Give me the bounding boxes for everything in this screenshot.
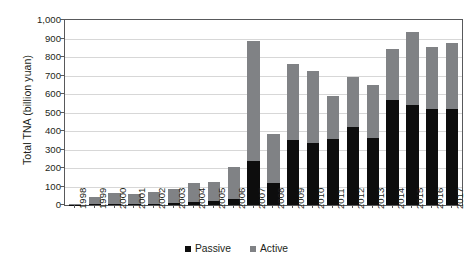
bar-segment-active <box>347 77 359 127</box>
x-axis-tick-mark <box>332 205 333 208</box>
x-axis-tick-label: 2009 <box>296 188 306 209</box>
x-axis-tick-label: 2011 <box>336 188 346 209</box>
bar-segment-active <box>406 32 418 105</box>
x-axis-tick-label: 2010 <box>316 188 326 209</box>
y-axis-tick-label: 600 <box>5 89 61 99</box>
x-axis-tick-label: 2004 <box>197 188 207 209</box>
y-axis-tick-label: 1,000 <box>5 15 61 25</box>
bar-segment-active <box>367 85 379 139</box>
bar-stack <box>247 41 259 205</box>
y-axis-tick-label: 800 <box>5 52 61 62</box>
legend-swatch-icon <box>250 246 256 252</box>
x-axis-tick-label: 2000 <box>118 188 128 209</box>
chart-legend: PassiveActive <box>0 243 473 254</box>
y-axis-tick-label: 700 <box>5 71 61 81</box>
x-axis-tick-label: 2005 <box>217 188 227 209</box>
bar-segment-active <box>327 96 339 139</box>
x-axis-tick-label: 2002 <box>157 188 167 209</box>
bar-stack <box>446 43 458 205</box>
x-axis-tick-mark <box>94 205 95 208</box>
y-axis-tick-label: 400 <box>5 126 61 136</box>
x-axis-tick-label: 2017 <box>455 188 465 209</box>
x-axis-tick-mark <box>213 205 214 208</box>
bar-segment-active <box>307 71 319 143</box>
x-axis-tick-mark <box>173 205 174 208</box>
x-axis-tick-mark <box>312 205 313 208</box>
bar-segment-active <box>287 64 299 140</box>
legend-item-passive: Passive <box>185 243 231 254</box>
x-axis-tick-mark <box>253 205 254 208</box>
x-axis-tick-label: 1998 <box>78 188 88 209</box>
bar-segment-active <box>267 134 279 183</box>
bar-segment-active <box>446 43 458 109</box>
bar-stack <box>287 64 299 205</box>
x-axis-tick-mark <box>352 205 353 208</box>
x-axis-tick-mark <box>153 205 154 208</box>
legend-label: Passive <box>195 243 231 254</box>
bar-segment-active <box>247 41 259 160</box>
y-axis-tick-label: 200 <box>5 163 61 173</box>
x-axis-tick-label: 2015 <box>415 188 425 209</box>
y-axis-tick-label: 300 <box>5 145 61 155</box>
bar-segment-active <box>426 47 438 109</box>
x-axis-tick-label: 2001 <box>137 188 147 209</box>
x-axis-tick-mark <box>411 205 412 208</box>
x-axis-tick-label: 2014 <box>396 188 406 209</box>
x-axis-tick-mark <box>372 205 373 208</box>
bar-segment-active <box>386 49 398 100</box>
x-axis-tick-mark <box>392 205 393 208</box>
x-axis-tick-label: 2003 <box>177 188 187 209</box>
bar-stack <box>347 77 359 205</box>
bar-stack <box>426 47 438 205</box>
x-axis-tick-mark <box>292 205 293 208</box>
x-axis-tick-mark <box>114 205 115 208</box>
legend-swatch-icon <box>185 246 191 252</box>
chart-figure: Total TNA (billion yuan) 010020030040050… <box>0 0 473 268</box>
x-axis-tick-mark <box>133 205 134 208</box>
legend-label: Active <box>260 243 288 254</box>
bar-stack <box>406 32 418 205</box>
bar-group <box>65 20 462 205</box>
x-axis-tick-label: 2006 <box>237 188 247 209</box>
x-axis-tick-label: 2008 <box>276 188 286 209</box>
x-axis-tick-mark <box>74 205 75 208</box>
x-axis-tick-label: 2016 <box>435 188 445 209</box>
x-axis-tick-label: 2012 <box>356 188 366 209</box>
x-axis-tick-mark <box>431 205 432 208</box>
y-axis-tick-label: 100 <box>5 182 61 192</box>
plot-area <box>64 19 463 206</box>
x-axis-tick-label: 2013 <box>376 188 386 209</box>
x-axis-tick-mark <box>272 205 273 208</box>
x-axis-tick-label: 1999 <box>98 188 108 209</box>
x-axis-tick-mark <box>451 205 452 208</box>
y-axis-tick-label: 500 <box>5 108 61 118</box>
x-axis-tick-mark <box>193 205 194 208</box>
y-axis-tick-label: 0 <box>5 200 61 210</box>
legend-item-active: Active <box>250 243 288 254</box>
x-axis-tick-label: 2007 <box>257 188 267 209</box>
x-axis-tick-mark <box>233 205 234 208</box>
y-axis-tick-label: 900 <box>5 34 61 44</box>
bar-stack <box>386 49 398 205</box>
bar-stack <box>307 71 319 205</box>
